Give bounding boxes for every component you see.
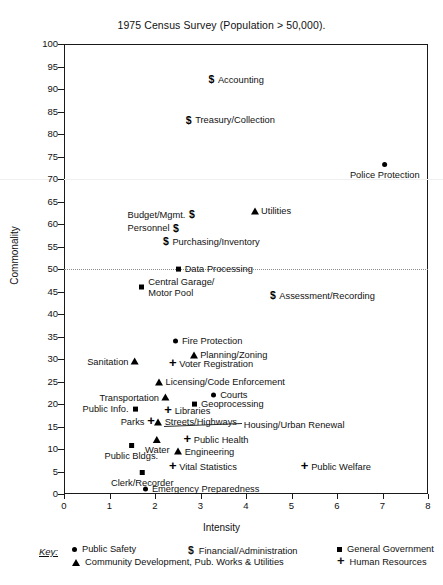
legend-item-public-safety: Public Safety xyxy=(72,544,136,554)
x-tick-label: 7 xyxy=(368,500,398,511)
data-point: Police Protection xyxy=(350,159,420,181)
data-point: Public Welfare xyxy=(300,462,371,473)
y-tick-mark xyxy=(58,179,64,180)
legend-item-label: Financial/Administration xyxy=(199,546,298,556)
y-tick-label: 30 xyxy=(24,354,58,364)
data-point: Utilities xyxy=(250,205,291,216)
y-tick-mark xyxy=(58,202,64,203)
y-tick-label: 100 xyxy=(24,39,58,49)
y-tick-mark xyxy=(58,247,64,248)
legend-item-community-development: Community Development, Pub. Works & Util… xyxy=(72,557,284,567)
x-tick-mark xyxy=(155,494,156,499)
y-tick-label: 0 xyxy=(24,489,58,499)
square-marker-icon xyxy=(138,468,147,479)
data-point: Voter Registration xyxy=(168,358,253,369)
legend-row-2: Community Development, Pub. Works & Util… xyxy=(72,557,443,570)
x-tick-label: 3 xyxy=(186,500,216,511)
x-tick-mark xyxy=(201,494,202,499)
y-tick-label: 65 xyxy=(24,197,58,207)
data-point-label: Fire Protection xyxy=(182,336,242,347)
y-tick-label: 45 xyxy=(24,287,58,297)
data-point-label: Public Health xyxy=(194,435,249,446)
data-point: Emergency Preparedness xyxy=(141,483,260,494)
data-point: Data Processing xyxy=(174,264,253,275)
x-tick-mark xyxy=(292,494,293,499)
square-marker-icon xyxy=(127,441,136,452)
plus-marker-icon xyxy=(164,406,173,417)
data-point: Vital Statistics xyxy=(168,462,237,473)
y-tick-mark xyxy=(58,337,64,338)
data-point: Personnel xyxy=(128,223,181,235)
y-tick-mark xyxy=(58,112,64,113)
triangle-marker-icon xyxy=(250,205,259,216)
data-point-label: Public Info. xyxy=(83,403,129,414)
x-tick-label: 8 xyxy=(413,500,443,511)
data-point-label: Emergency Preparedness xyxy=(152,483,260,494)
y-tick-mark xyxy=(58,134,64,135)
data-point: Public Info. xyxy=(83,403,140,414)
data-point-label: Libraries xyxy=(175,406,211,417)
data-point-label: Sanitation xyxy=(87,356,128,367)
data-point-label: Utilities xyxy=(261,205,291,216)
x-axis-label: Intensity xyxy=(0,522,443,533)
y-tick-label: 25 xyxy=(24,377,58,387)
y-axis-label: Commonality xyxy=(9,206,20,306)
y-tick-mark xyxy=(58,427,64,428)
data-point-label: Transportation xyxy=(99,392,159,403)
y-tick-label: 20 xyxy=(24,399,58,409)
square-marker-icon xyxy=(174,264,183,275)
y-tick-label: 75 xyxy=(24,152,58,162)
square-marker-icon xyxy=(137,282,146,293)
x-tick-mark xyxy=(383,494,384,499)
data-point: Transportation xyxy=(99,392,170,403)
x-tick-label: 5 xyxy=(277,500,307,511)
y-tick-mark xyxy=(58,382,64,383)
circle-marker-icon xyxy=(141,483,150,494)
y-tick-label: 35 xyxy=(24,332,58,342)
circle-marker-icon xyxy=(380,159,389,170)
square-marker-icon xyxy=(131,403,140,414)
data-point-label: Central Garage/Motor Pool xyxy=(148,277,214,298)
x-tick-mark xyxy=(246,494,247,499)
data-point-label: Housing/Urban Renewal xyxy=(244,419,345,430)
x-tick-mark xyxy=(110,494,111,499)
y-tick-label: 40 xyxy=(24,309,58,319)
dollar-marker-icon xyxy=(161,236,170,248)
x-tick-mark xyxy=(64,494,65,499)
legend-item-financial-administration: Financial/Administration xyxy=(188,544,298,556)
data-point-label: Treasury/Collection xyxy=(195,115,275,126)
data-point-label: Police Protection xyxy=(350,170,420,181)
data-point: Fire Protection xyxy=(171,336,242,347)
data-point: Accounting xyxy=(207,74,264,86)
data-point: Libraries xyxy=(164,405,211,416)
legend-item-label: Public Safety xyxy=(82,544,136,554)
data-point: Housing/Urban Renewal xyxy=(244,419,345,430)
circle-marker-icon xyxy=(171,336,180,347)
chart-title: 1975 Census Survey (Population > 50,000)… xyxy=(0,19,443,31)
plus-marker-icon xyxy=(300,462,309,473)
y-tick-mark xyxy=(58,157,64,158)
legend-row-1: Public Safety Financial/Administration G… xyxy=(72,544,443,557)
legend-item-label: Human Resources xyxy=(350,557,427,567)
y-tick-label: 70 xyxy=(24,174,58,184)
legend-item-label: General Government xyxy=(347,544,434,554)
y-tick-label: 55 xyxy=(24,242,58,252)
y-tick-label: 60 xyxy=(24,219,58,229)
triangle-marker-icon xyxy=(131,356,140,367)
y-tick-mark xyxy=(58,89,64,90)
data-point-label: Licensing/Code Enforcement xyxy=(166,376,285,387)
data-point-label: Voter Registration xyxy=(179,358,253,369)
x-tick-label: 4 xyxy=(231,500,261,511)
plus-marker-icon xyxy=(337,557,345,567)
plus-marker-icon xyxy=(183,435,192,446)
data-point: Licensing/Code Enforcement xyxy=(155,376,285,387)
data-point-label: Parks xyxy=(121,417,145,428)
y-tick-mark xyxy=(58,472,64,473)
legend-key-label: Key: xyxy=(39,546,58,557)
y-tick-label: 10 xyxy=(24,444,58,454)
data-point-label: Engineering xyxy=(185,446,235,457)
data-point: Parks xyxy=(121,417,156,428)
y-tick-mark xyxy=(58,449,64,450)
y-tick-mark xyxy=(58,224,64,225)
x-tick-label: 1 xyxy=(95,500,125,511)
